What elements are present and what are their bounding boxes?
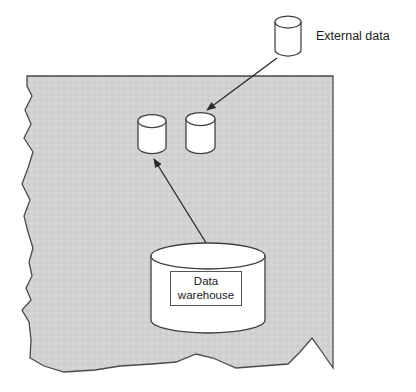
data-warehouse-label-box: Data warehouse bbox=[170, 271, 242, 306]
internal-cylinder-right[interactable] bbox=[186, 113, 215, 154]
internal-cylinder-left[interactable] bbox=[138, 115, 166, 154]
data-warehouse-label-line-2: warehouse bbox=[178, 289, 234, 303]
external-data-cylinder[interactable] bbox=[275, 16, 301, 56]
diagram-canvas: External data Data warehouse bbox=[0, 0, 416, 392]
diagram-svg bbox=[0, 0, 416, 392]
external-data-label: External data bbox=[316, 29, 390, 43]
data-warehouse-label-line-1: Data bbox=[194, 275, 218, 289]
